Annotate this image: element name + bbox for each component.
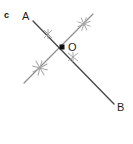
- tick-mark-upper-right: [75, 15, 93, 33]
- label-point-a: A: [22, 11, 29, 22]
- tick-mark-lower-right: [68, 52, 78, 62]
- tick-mark-lower-left: [30, 58, 50, 78]
- geometry-figure: c A O B: [0, 0, 133, 144]
- label-line-c: c: [4, 11, 9, 20]
- label-point-o: O: [68, 42, 77, 53]
- point-o-dot: [60, 45, 65, 50]
- label-point-b: B: [117, 102, 124, 113]
- geometry-canvas: [0, 0, 133, 144]
